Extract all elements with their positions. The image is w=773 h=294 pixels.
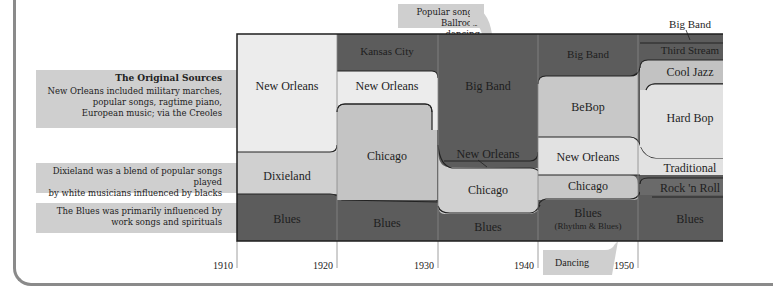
label-rock-n-roll: Rock 'n Roll [660,181,721,195]
label-big-band-1940: Big Band [567,48,609,60]
region-new-orleans-1910 [237,34,337,152]
label-dancing: Dancing [555,257,589,268]
label-blues-1950: Blues [676,212,704,226]
label-new-orleans-1930: New Orleans [457,147,520,161]
label-traditional: Traditional [664,161,718,175]
label-new-orleans-1920: New Orleans [356,79,419,93]
label-big-band-1930: Big Band [465,79,511,93]
label-kansas-city: Kansas City [360,45,414,57]
label-blues-1940: Blues [574,206,602,220]
label-blues-1910: Blues [273,212,301,226]
label-rhythm-blues: (Rhythm & Blues) [555,221,622,231]
label-new-orleans-1940: New Orleans [557,150,620,164]
year-1950: 1950 [614,260,634,271]
label-chicago-1930: Chicago [468,183,508,197]
year-1930: 1930 [414,260,434,271]
label-cool-jazz: Cool Jazz [667,65,714,79]
year-1940: 1940 [514,260,534,271]
year-1920: 1920 [313,260,333,271]
label-bebop: BeBop [571,100,604,114]
label-third-stream: Third Stream [661,44,720,56]
label-blues-1920: Blues [373,216,401,230]
label-blues-1930: Blues [474,220,502,234]
label-chicago-1920: Chicago [367,149,407,163]
label-dixieland: Dixieland [263,169,310,183]
label-big-band-top: Big Band [669,18,711,30]
label-chicago-1940: Chicago [568,179,608,193]
label-new-orleans-1910: New Orleans [256,79,319,93]
year-1910: 1910 [213,260,233,271]
label-hard-bop: Hard Bop [667,111,714,125]
